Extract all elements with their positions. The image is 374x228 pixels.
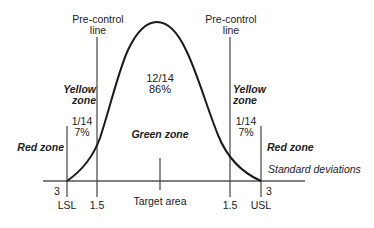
precontrol-label-left: Pre-control line xyxy=(70,14,126,36)
red-zone-right-label: Red zone xyxy=(267,142,317,153)
precontrol-label-right-line2: line xyxy=(203,25,259,36)
center-percent: 86% xyxy=(140,84,180,95)
center-proportion: 12/14 86% xyxy=(140,73,180,95)
right-tail-percent: 7% xyxy=(233,127,259,138)
precontrol-label-right: Pre-control line xyxy=(203,14,259,36)
target-area-label: Target area xyxy=(128,196,192,207)
pc-right-tick-label: 1.5 xyxy=(218,200,242,211)
left-tail-percent: 7% xyxy=(69,127,95,138)
yellow-right-line2: zone xyxy=(233,95,273,106)
pc-left-tick-label: 1.5 xyxy=(85,200,109,211)
yellow-zone-left: Yellow zone xyxy=(60,84,96,106)
red-zone-left-label: Red zone xyxy=(16,142,64,153)
distribution-curve xyxy=(67,22,261,181)
precontrol-diagram: Pre-control line Pre-control line 12/14 … xyxy=(0,0,374,228)
left-tail-proportion: 1/14 7% xyxy=(69,116,95,138)
usl-label: USL xyxy=(247,200,275,211)
usl-sigma-label: 3 xyxy=(264,186,274,197)
axis-label: Standard deviations xyxy=(268,164,372,175)
right-tail-proportion: 1/14 7% xyxy=(233,116,259,138)
precontrol-label-left-line2: line xyxy=(70,25,126,36)
yellow-zone-right: Yellow zone xyxy=(233,84,273,106)
green-zone-label: Green zone xyxy=(128,129,192,140)
yellow-left-line2: zone xyxy=(60,95,96,106)
lsl-sigma-label: 3 xyxy=(52,186,62,197)
lsl-label: LSL xyxy=(53,200,81,211)
